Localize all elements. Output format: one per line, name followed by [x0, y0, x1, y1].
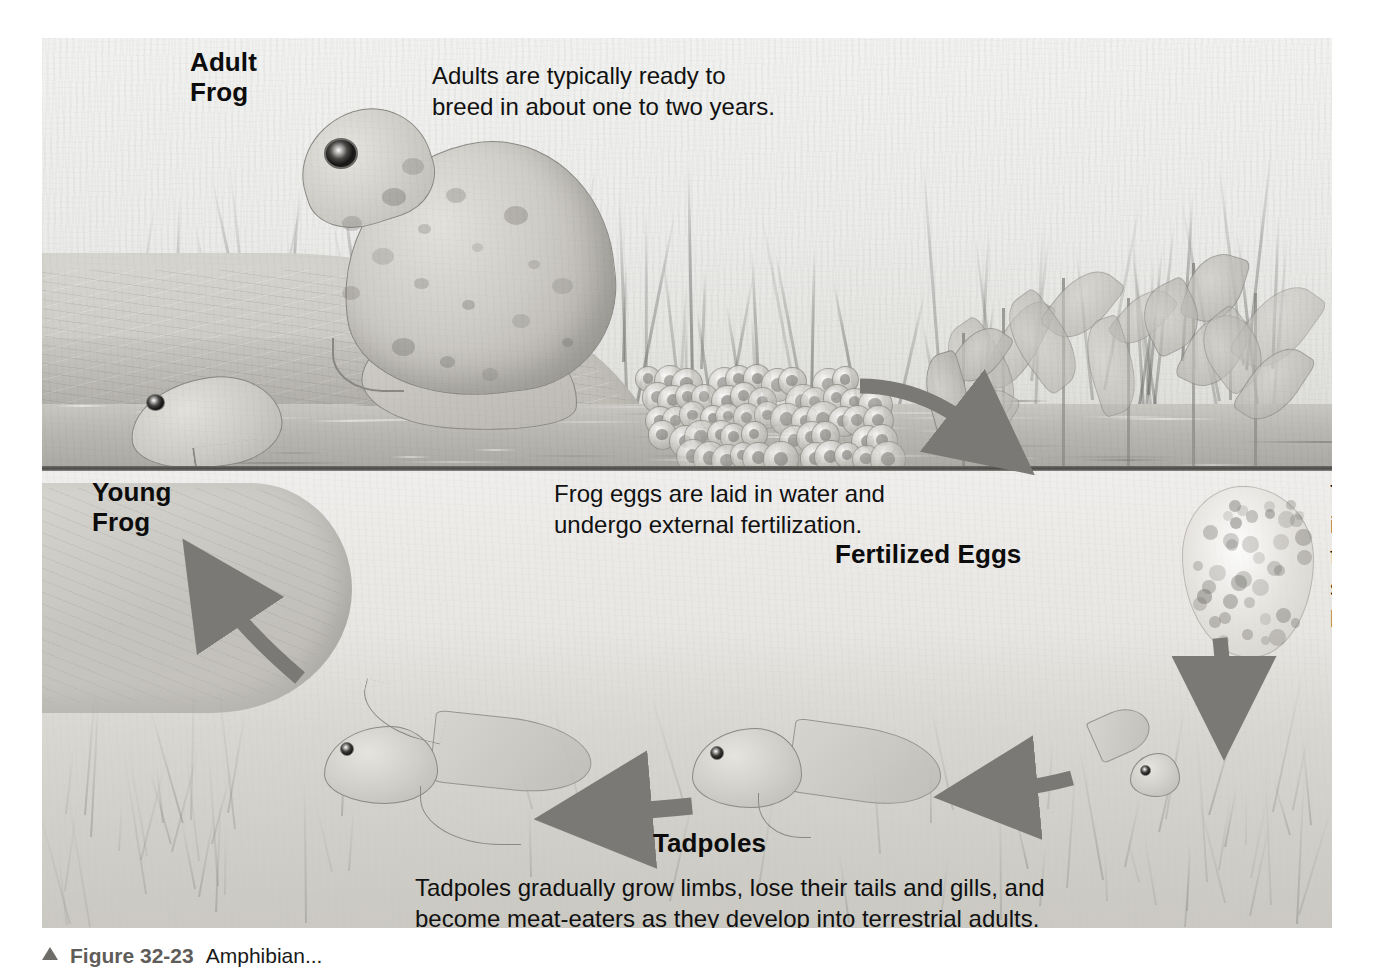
- fertilized-egg-dot: [1295, 511, 1304, 520]
- fertilized-egg-dot: [1265, 509, 1275, 519]
- grass-blade: [1066, 763, 1077, 888]
- fertilized-egg-dot: [1229, 500, 1241, 512]
- tadpoles-annotation: Tadpoles gradually grow limbs, lose thei…: [415, 872, 1045, 928]
- grass-blade: [1245, 789, 1247, 845]
- grass-blade: [650, 692, 688, 810]
- grass-blade: [90, 693, 100, 837]
- grass-blade: [124, 759, 147, 894]
- tadpole-advanced-eye: [340, 742, 354, 756]
- grass-blade: [1184, 854, 1191, 928]
- grass-blade: [140, 758, 168, 860]
- grass-blade: [1208, 707, 1241, 815]
- grass-blade: [118, 807, 122, 851]
- fertilized-eggs-label: Fertilized Eggs: [835, 540, 1021, 570]
- grass-blade: [227, 709, 246, 813]
- fertilized-egg-dot: [1218, 635, 1229, 646]
- fertilized-egg-dot: [1242, 629, 1252, 639]
- fertilized-egg-dot: [1203, 525, 1218, 540]
- grass-blade: [1264, 760, 1272, 905]
- eggs-annotation: Frog eggs are laid in water and undergo …: [554, 478, 885, 540]
- grass-blade: [190, 675, 195, 820]
- fertilized-egg-dot: [1260, 613, 1272, 625]
- grass-blade: [1105, 850, 1109, 901]
- fertilized-egg-dot: [1244, 597, 1255, 608]
- grass-blade: [42, 803, 71, 924]
- grass-blade: [1273, 779, 1291, 835]
- grass-blade: [304, 778, 307, 923]
- young-frog-label: Young Frog: [92, 478, 171, 538]
- fertilized-egg-dot: [1276, 608, 1291, 623]
- grass-blade: [315, 801, 333, 872]
- grass-blade: [1047, 738, 1054, 809]
- fertilized-egg-dot: [1269, 629, 1286, 646]
- fertilized-egg-dot: [1286, 500, 1296, 510]
- grass-blade: [1014, 813, 1029, 869]
- grass-blade: [528, 805, 531, 877]
- adult-frog-label: Adult Frog: [190, 48, 257, 108]
- tadpoles-label: Tadpoles: [653, 829, 766, 859]
- tadpole-young-eye: [1140, 765, 1151, 776]
- fertilized-egg-dot: [1291, 618, 1300, 627]
- fertilized-egg-dot: [1209, 565, 1226, 582]
- fertilized-egg-dot: [1230, 517, 1242, 529]
- grass-blade: [1079, 746, 1105, 880]
- triangle-icon: [42, 947, 58, 960]
- grass-blade: [627, 800, 632, 858]
- fertilized-egg-dot: [1193, 561, 1203, 571]
- fertilized-egg-dot: [1223, 594, 1238, 609]
- fertilized-egg-dot: [1278, 511, 1294, 527]
- tadpole-middle-eye: [710, 746, 724, 760]
- fertilized-egg-dot: [1252, 579, 1269, 596]
- adult-annotation: Adults are typically ready to breed in a…: [432, 60, 775, 122]
- fertilized-egg-dot: [1297, 550, 1312, 565]
- grass-blade: [1143, 835, 1157, 906]
- fertilized-egg-dot: [1242, 536, 1259, 553]
- fertilized-egg-dot: [1235, 571, 1252, 588]
- hatch-annotation: The eggs hatch into tadpoles a few days …: [1330, 478, 1332, 634]
- fertilized-egg-dot: [1295, 529, 1312, 546]
- grass-blade: [1218, 791, 1232, 870]
- fertilized-egg-dot: [1261, 636, 1270, 645]
- fertilized-egg-dot: [1209, 616, 1221, 628]
- grass-blade: [1197, 735, 1208, 882]
- frog-life-cycle-illustration: Adult Frog Adults are typically ready to…: [42, 38, 1332, 928]
- fertilized-egg-dot: [1273, 534, 1289, 550]
- figure-number: Figure 32-23: [70, 944, 194, 968]
- fertilized-egg-dot: [1193, 597, 1207, 611]
- grass-blade: [224, 823, 227, 895]
- figure-caption-text: Amphibian...: [206, 944, 323, 968]
- figure-caption: Figure 32-23 Amphibian...: [42, 944, 322, 971]
- fertilized-egg-dot: [1267, 561, 1282, 576]
- grass-blade: [348, 808, 354, 871]
- fertilized-egg-dot: [1219, 612, 1231, 624]
- fertilized-egg-dot: [1253, 552, 1265, 564]
